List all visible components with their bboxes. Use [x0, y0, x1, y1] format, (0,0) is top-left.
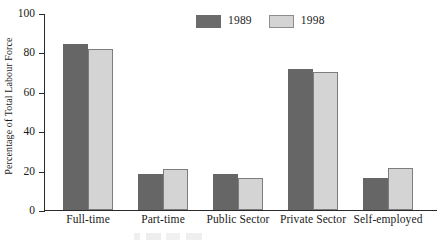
scan-artifact — [128, 233, 248, 240]
bar-self-employed-1989 — [363, 178, 388, 210]
bar-part-time-1998 — [163, 169, 188, 210]
y-tick-label: 60 — [24, 87, 36, 99]
bar-self-employed-1998 — [388, 168, 413, 210]
bar-full-time-1989 — [63, 44, 88, 210]
bar-chart: 1989 1998 Percentage of Total Labour For… — [0, 0, 437, 244]
y-axis-title: Percentage of Total Labour Force — [2, 0, 16, 212]
y-tick-label: 20 — [24, 166, 36, 178]
y-tick-label: 0 — [29, 205, 35, 217]
bar-public-sector-1989 — [213, 174, 238, 210]
y-tick-mark — [39, 211, 45, 212]
x-axis-line — [44, 210, 437, 211]
bar-private-sector-1989 — [288, 69, 313, 210]
plot-area: 100806040200 — [44, 14, 437, 211]
bar-full-time-1998 — [88, 49, 113, 210]
category-label-private-sector: Private Sector — [280, 214, 346, 226]
bar-part-time-1989 — [138, 174, 163, 210]
bar-private-sector-1998 — [313, 72, 338, 210]
x-axis-category-labels: Full-timePart-timePublic SectorPrivate S… — [44, 214, 437, 232]
category-label-public-sector: Public Sector — [207, 214, 270, 226]
category-label-part-time: Part-time — [141, 214, 185, 226]
bar-series-container — [45, 14, 437, 210]
category-label-full-time: Full-time — [66, 214, 110, 226]
bar-public-sector-1998 — [238, 178, 263, 210]
y-tick-label: 80 — [24, 48, 36, 60]
y-tick-label: 100 — [18, 8, 35, 20]
y-tick-label: 40 — [24, 126, 36, 138]
category-label-self-employed: Self-employed — [353, 214, 422, 226]
